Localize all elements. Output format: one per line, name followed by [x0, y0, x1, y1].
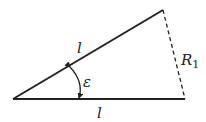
angle-arc-icon [70, 67, 80, 98]
triangle-diagram: l l ε R1 [0, 0, 206, 122]
chord-label-subscript: 1 [192, 58, 199, 71]
upper-side-label: l [77, 39, 82, 57]
chord-label-main: R [180, 51, 192, 69]
angle-label: ε [83, 73, 91, 91]
chord-label: R1 [180, 51, 199, 71]
lower-side-label: l [97, 104, 102, 122]
